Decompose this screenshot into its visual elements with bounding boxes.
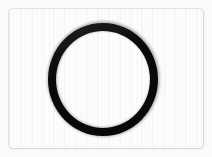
scan-card — [9, 9, 203, 148]
image-canvas: Black rubber O-ring gasket photographed … — [0, 0, 212, 157]
o-ring-body — [48, 23, 158, 136]
o-ring-object — [48, 23, 158, 136]
